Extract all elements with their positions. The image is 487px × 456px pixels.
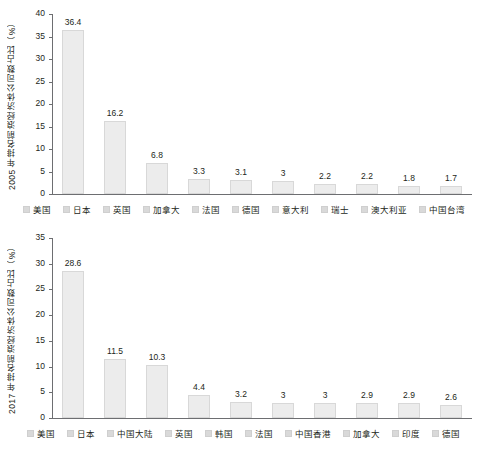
legend-swatch-icon bbox=[192, 206, 199, 213]
y-tick-label: 10 bbox=[23, 361, 45, 371]
y-tick-mark bbox=[49, 37, 52, 38]
bar bbox=[356, 184, 378, 194]
bar-value-label: 28.6 bbox=[53, 258, 93, 268]
y-tick-label: 30 bbox=[23, 258, 45, 268]
y-tick-mark bbox=[49, 82, 52, 83]
bar bbox=[188, 395, 210, 418]
y-tick-mark bbox=[49, 418, 52, 419]
legend-label: 澳大利亚 bbox=[371, 203, 407, 215]
y-tick-mark bbox=[49, 127, 52, 128]
legend-item[interactable]: 德国 bbox=[232, 203, 260, 215]
legend-item[interactable]: 意大利 bbox=[272, 203, 309, 215]
y-tick-label: 25 bbox=[23, 283, 45, 293]
legend-item[interactable]: 加拿大 bbox=[343, 427, 380, 439]
legend-item[interactable]: 法国 bbox=[192, 203, 220, 215]
bar-value-label: 3 bbox=[305, 390, 345, 400]
bar-value-label: 4.4 bbox=[179, 382, 219, 392]
legend-item[interactable]: 中国香港 bbox=[285, 427, 331, 439]
y-tick-label: 30 bbox=[23, 53, 45, 63]
legend-item[interactable]: 日本 bbox=[63, 203, 91, 215]
y-tick-mark bbox=[49, 172, 52, 173]
legend-item[interactable]: 韩国 bbox=[205, 427, 233, 439]
legend-item[interactable]: 英国 bbox=[103, 203, 131, 215]
legend: 美国日本中国大陆英国韩国法国中国香港加拿大印度德国 bbox=[0, 427, 487, 439]
legend-item[interactable]: 美国 bbox=[27, 427, 55, 439]
legend-swatch-icon bbox=[232, 206, 239, 213]
legend-label: 加拿大 bbox=[153, 203, 180, 215]
y-tick-mark bbox=[49, 315, 52, 316]
legend-item[interactable]: 德国 bbox=[432, 427, 460, 439]
legend-item[interactable]: 澳大利亚 bbox=[361, 203, 407, 215]
bar bbox=[272, 403, 294, 418]
legend-swatch-icon bbox=[285, 430, 292, 437]
bar-value-label: 2.2 bbox=[305, 171, 345, 181]
legend-label: 法国 bbox=[255, 427, 273, 439]
y-tick-label: 15 bbox=[23, 121, 45, 131]
y-tick-mark bbox=[49, 104, 52, 105]
y-axis-line bbox=[52, 14, 53, 194]
legend-label: 中国台湾 bbox=[429, 203, 465, 215]
legend-label: 中国大陆 bbox=[117, 427, 153, 439]
bar bbox=[230, 180, 252, 194]
bar bbox=[104, 121, 126, 194]
bar bbox=[398, 403, 420, 418]
y-tick-label: 10 bbox=[23, 143, 45, 153]
y-tick-mark bbox=[49, 238, 52, 239]
legend-label: 韩国 bbox=[215, 427, 233, 439]
bar-value-label: 2.6 bbox=[431, 392, 471, 402]
y-tick-label: 20 bbox=[23, 309, 45, 319]
bar-value-label: 3 bbox=[263, 168, 303, 178]
legend-item[interactable]: 英国 bbox=[165, 427, 193, 439]
y-tick-label: 5 bbox=[23, 166, 45, 176]
y-axis-label: 2017 年排名前浪经济体公司数占比（%） bbox=[6, 238, 18, 418]
x-axis-line bbox=[52, 418, 472, 419]
legend-swatch-icon bbox=[63, 206, 70, 213]
bar bbox=[188, 179, 210, 194]
bar bbox=[146, 365, 168, 418]
legend-item[interactable]: 中国台湾 bbox=[419, 203, 465, 215]
legend-swatch-icon bbox=[272, 206, 279, 213]
legend-swatch-icon bbox=[27, 430, 34, 437]
chart-2005: 2005 年排名前浪经济体公司数占比（%）051015202530354036.… bbox=[0, 0, 487, 222]
legend-item[interactable]: 加拿大 bbox=[143, 203, 180, 215]
bar bbox=[146, 163, 168, 194]
legend-swatch-icon bbox=[205, 430, 212, 437]
y-tick-label: 5 bbox=[23, 386, 45, 396]
legend-label: 法国 bbox=[202, 203, 220, 215]
y-tick-label: 20 bbox=[23, 98, 45, 108]
bar bbox=[440, 186, 462, 194]
legend-label: 瑞士 bbox=[331, 203, 349, 215]
y-tick-mark bbox=[49, 367, 52, 368]
legend-item[interactable]: 日本 bbox=[67, 427, 95, 439]
y-tick-mark bbox=[49, 264, 52, 265]
legend-label: 日本 bbox=[73, 203, 91, 215]
y-axis-label: 2005 年排名前浪经济体公司数占比（%） bbox=[6, 14, 18, 194]
legend: 美国日本英国加拿大法国德国意大利瑞士澳大利亚中国台湾 bbox=[0, 203, 487, 215]
legend-swatch-icon bbox=[107, 430, 114, 437]
bar bbox=[62, 271, 84, 418]
bar bbox=[314, 403, 336, 418]
bar-value-label: 3.1 bbox=[221, 167, 261, 177]
y-tick-label: 0 bbox=[23, 188, 45, 198]
legend-label: 德国 bbox=[442, 427, 460, 439]
bar bbox=[356, 403, 378, 418]
legend-label: 意大利 bbox=[282, 203, 309, 215]
bar-value-label: 3 bbox=[263, 390, 303, 400]
y-tick-mark bbox=[49, 59, 52, 60]
legend-label: 印度 bbox=[402, 427, 420, 439]
x-axis-line bbox=[52, 194, 472, 195]
legend-swatch-icon bbox=[103, 206, 110, 213]
y-tick-label: 40 bbox=[23, 8, 45, 18]
legend-label: 英国 bbox=[175, 427, 193, 439]
legend-item[interactable]: 法国 bbox=[245, 427, 273, 439]
y-tick-label: 0 bbox=[23, 412, 45, 422]
legend-swatch-icon bbox=[343, 430, 350, 437]
legend-item[interactable]: 印度 bbox=[392, 427, 420, 439]
y-tick-mark bbox=[49, 149, 52, 150]
legend-item[interactable]: 中国大陆 bbox=[107, 427, 153, 439]
legend-item[interactable]: 瑞士 bbox=[321, 203, 349, 215]
legend-item[interactable]: 美国 bbox=[23, 203, 51, 215]
y-tick-label: 25 bbox=[23, 76, 45, 86]
legend-swatch-icon bbox=[245, 430, 252, 437]
y-tick-mark bbox=[49, 194, 52, 195]
